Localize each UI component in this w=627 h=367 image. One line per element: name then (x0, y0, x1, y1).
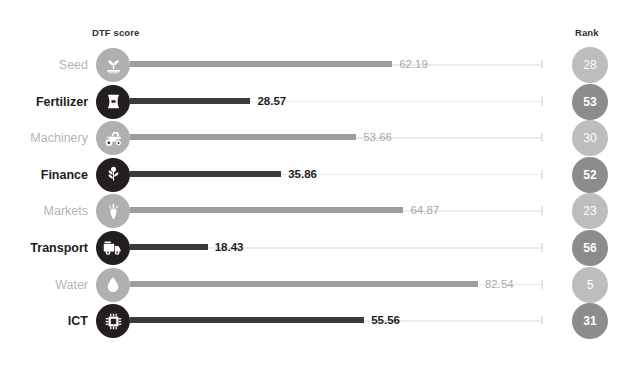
score-value: 28.57 (257, 94, 286, 108)
track-end-cap (541, 97, 543, 106)
rank-badge: 23 (572, 193, 608, 229)
score-value: 64.87 (410, 203, 439, 217)
rank-badge: 52 (572, 157, 608, 193)
rank-badge: 31 (572, 303, 608, 339)
track-end-cap (541, 316, 543, 325)
score-value: 53.66 (363, 130, 392, 144)
rank-badge: 30 (572, 120, 608, 156)
chart-row: Fertilizer28.5753 (0, 84, 627, 120)
plant-coin-icon (96, 158, 130, 192)
tractor-icon (96, 121, 130, 155)
score-value: 55.56 (371, 313, 400, 327)
score-bar (130, 244, 208, 250)
chart-row: Water82.545 (0, 267, 627, 303)
score-bar (130, 171, 281, 177)
track-end-cap (541, 170, 543, 179)
water-drop-icon (96, 268, 130, 302)
rank-badge: 28 (572, 47, 608, 83)
rank-badge: 5 (572, 267, 608, 303)
column-header-dtf-score: DTF score (92, 27, 139, 38)
row-label: Machinery (8, 120, 88, 156)
row-label: Fertilizer (8, 84, 88, 120)
dtf-score-chart: DTF score Rank Seed62.1928Fertilizer28.5… (0, 0, 627, 367)
truck-icon (96, 231, 130, 265)
chart-row: ICT55.5631 (0, 303, 627, 339)
score-bar (130, 281, 478, 287)
score-value: 82.54 (485, 277, 514, 291)
score-bar (130, 98, 250, 104)
row-label: Finance (8, 157, 88, 193)
score-value: 62.19 (399, 57, 428, 71)
row-label: Water (8, 267, 88, 303)
track-end-cap (541, 60, 543, 69)
track-end-cap (541, 280, 543, 289)
score-bar (130, 134, 356, 140)
rank-badge: 53 (572, 84, 608, 120)
score-bar (130, 207, 403, 213)
chart-row: Seed62.1928 (0, 47, 627, 83)
row-label: ICT (8, 303, 88, 339)
fertilizer-bag-icon (96, 85, 130, 119)
chart-row: Finance35.8652 (0, 157, 627, 193)
track-end-cap (541, 133, 543, 142)
score-bar (130, 61, 392, 67)
score-value: 35.86 (288, 167, 317, 181)
score-bar (130, 317, 364, 323)
score-value: 18.43 (215, 240, 244, 254)
carrot-icon (96, 194, 130, 228)
microchip-icon (96, 304, 130, 338)
rank-badge: 56 (572, 230, 608, 266)
chart-row: Markets64.8723 (0, 193, 627, 229)
row-label: Transport (8, 230, 88, 266)
row-label: Seed (8, 47, 88, 83)
chart-row: Transport18.4356 (0, 230, 627, 266)
track-end-cap (541, 206, 543, 215)
seedling-icon (96, 48, 130, 82)
track-end-cap (541, 243, 543, 252)
row-label: Markets (8, 193, 88, 229)
column-header-rank: Rank (575, 27, 599, 38)
chart-row: Machinery53.6630 (0, 120, 627, 156)
